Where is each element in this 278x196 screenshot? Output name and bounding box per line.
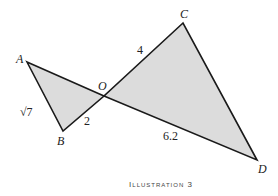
- side-label-oc: 4: [137, 44, 143, 56]
- point-label-b: B: [57, 135, 64, 147]
- figure-caption: Illustration 3: [0, 180, 278, 189]
- triangles-figure: [0, 0, 278, 196]
- side-label-od: 6.2: [163, 130, 178, 142]
- point-label-c: C: [180, 8, 188, 20]
- side-label-ab: √7: [20, 106, 33, 118]
- illustration: A B O C D √7 2 4 6.2 Illustration 3: [0, 0, 278, 196]
- point-label-o: O: [98, 80, 107, 92]
- triangle-aob: [27, 62, 104, 131]
- side-label-bo: 2: [84, 115, 90, 127]
- point-label-d: D: [258, 163, 267, 175]
- point-label-a: A: [16, 53, 23, 65]
- triangle-cod: [104, 23, 257, 160]
